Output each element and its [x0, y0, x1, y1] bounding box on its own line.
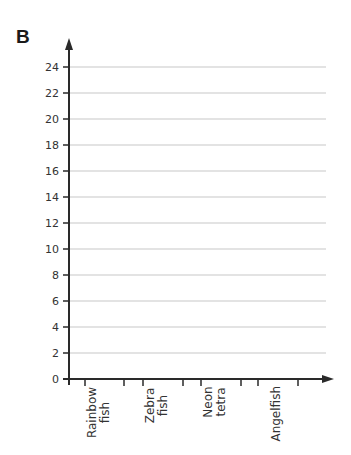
y-tick-label: 20 — [45, 113, 59, 126]
y-tick-label: 2 — [52, 347, 59, 360]
x-tick-label: Rainbow — [85, 387, 99, 438]
y-tick-label: 24 — [45, 61, 59, 74]
y-tick-label: 4 — [52, 321, 59, 334]
x-tick-label: fish — [98, 402, 112, 423]
x-tick-label: Neon — [201, 386, 215, 417]
y-tick-label: 6 — [52, 295, 59, 308]
x-tick-label: tetra — [214, 387, 228, 416]
y-tick-label: 0 — [52, 373, 59, 386]
y-tick-label: 18 — [45, 139, 59, 152]
bar-chart: 024681012141618202224RainbowfishZebrafis… — [0, 0, 351, 455]
y-tick-label: 16 — [45, 165, 59, 178]
y-axis-arrow-icon — [65, 38, 73, 50]
y-tick-label: 14 — [45, 191, 59, 204]
x-tick-label: fish — [156, 395, 170, 416]
y-tick-label: 22 — [45, 87, 59, 100]
x-axis-arrow-icon — [322, 375, 334, 383]
y-tick-label: 12 — [45, 217, 59, 230]
x-tick-label: Zebra — [143, 388, 157, 424]
y-tick-label: 10 — [45, 243, 59, 256]
x-tick-label: Angelfish — [269, 386, 283, 442]
y-tick-label: 8 — [52, 269, 59, 282]
